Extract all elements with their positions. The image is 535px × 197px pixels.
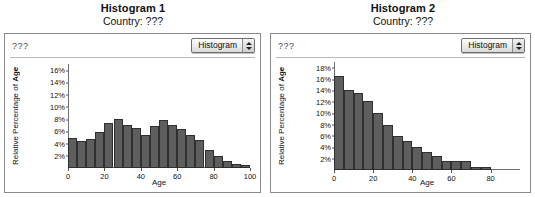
x-tick-mark — [214, 168, 215, 171]
histogram-bar — [363, 101, 373, 170]
histogram-bar — [68, 138, 77, 168]
histogram-bar — [393, 136, 403, 170]
x-tick-mark — [250, 168, 251, 171]
y-tick-label: 2% — [54, 151, 65, 160]
chart-1: Relative Percentage of Age 2%4%6%8%10%12… — [5, 58, 260, 192]
panel-2-subtitle: Country: ??? — [318, 15, 488, 28]
chart-2-y-ticks: 2%4%6%8%10%12%14%16%18% — [287, 62, 331, 170]
chart-1-plot-area — [68, 64, 250, 168]
histogram-bar — [383, 125, 393, 170]
x-tick-mark — [334, 170, 335, 173]
x-tick-mark — [141, 168, 142, 171]
histogram-bar — [168, 125, 177, 168]
chart-1-y-ticks: 2%4%6%8%10%12%14%16% — [21, 64, 65, 168]
y-tick-label: 4% — [54, 139, 65, 148]
histogram-bar — [373, 113, 383, 170]
x-tick-mark — [177, 168, 178, 171]
y-tick-label: 18% — [316, 63, 331, 72]
y-tick-label: 14% — [316, 86, 331, 95]
x-tick-mark — [373, 170, 374, 173]
panel-2-chart-type-label: Histogram — [462, 39, 512, 52]
panel-1-toolbar: ??? Histogram — [5, 34, 260, 58]
histogram-bar — [214, 156, 223, 168]
panel-1-subtitle: Country: ??? — [48, 15, 218, 28]
histogram-bar — [114, 119, 123, 168]
x-tick-mark — [68, 168, 69, 171]
x-tick-mark — [412, 170, 413, 173]
chart-1-x-axis-label: Age — [68, 178, 250, 187]
histogram-comparison-screen: Histogram 1 Country: ??? Histogram 2 Cou… — [0, 0, 535, 197]
histogram-bar — [132, 128, 141, 168]
chart-2-plot-area — [334, 62, 520, 170]
histogram-bar — [186, 135, 195, 168]
panel-2-chart-type-dropdown[interactable]: Histogram — [461, 38, 525, 53]
histogram-bar — [461, 161, 471, 170]
y-tick-label: 6% — [54, 127, 65, 136]
histogram-bar — [77, 141, 86, 168]
x-tick-mark — [104, 168, 105, 171]
histogram-bar — [177, 129, 186, 168]
panel-1-chart-type-label: Histogram — [192, 39, 242, 52]
histogram-bar — [344, 90, 354, 170]
histogram-bar — [412, 147, 422, 170]
histogram-bar — [451, 161, 461, 170]
panel-2-title: Histogram 2 — [318, 2, 488, 15]
panel-histogram-2: ??? Histogram Relative Percentage of Age… — [270, 33, 531, 193]
panel-2-corner-label: ??? — [278, 41, 295, 51]
histogram-bar — [223, 161, 232, 168]
y-tick-label: 6% — [320, 131, 331, 140]
panel-1-stepper-icon[interactable] — [242, 39, 254, 52]
y-tick-label: 12% — [316, 97, 331, 106]
y-tick-label: 4% — [320, 143, 331, 152]
y-tick-label: 8% — [54, 115, 65, 124]
histogram-bar — [159, 120, 168, 168]
panel-2-toolbar: ??? Histogram — [271, 34, 530, 58]
panel-1-chart-type-dropdown[interactable]: Histogram — [191, 38, 255, 53]
histogram-bar — [334, 76, 344, 170]
histogram-bar — [86, 139, 95, 168]
panel-histogram-1: ??? Histogram Relative Percentage of Age… — [4, 33, 261, 193]
y-tick-label: 16% — [316, 75, 331, 84]
panel-2-header: Histogram 2 Country: ??? — [318, 2, 488, 28]
histogram-bar — [232, 164, 241, 168]
histogram-bar — [205, 150, 214, 168]
y-tick-label: 14% — [50, 78, 65, 87]
histogram-bar — [195, 140, 204, 168]
histogram-bar — [95, 132, 104, 168]
panel-1-corner-label: ??? — [12, 41, 29, 51]
histogram-bar — [481, 167, 491, 170]
panel-2-stepper-icon[interactable] — [512, 39, 524, 52]
histogram-bar — [123, 125, 132, 168]
histogram-bar — [442, 161, 452, 170]
x-tick-mark — [491, 170, 492, 173]
chart-2-x-axis-label: Age — [334, 178, 520, 187]
chart-1-y-axis-label: Relative Percentage of Age — [11, 64, 20, 168]
histogram-bar — [422, 152, 432, 170]
histogram-bar — [354, 93, 364, 170]
y-tick-label: 16% — [50, 66, 65, 75]
histogram-bar — [241, 165, 250, 168]
y-tick-label: 2% — [320, 154, 331, 163]
histogram-bar — [141, 135, 150, 168]
histogram-bar — [471, 167, 481, 170]
y-tick-label: 10% — [316, 109, 331, 118]
histogram-bar — [150, 126, 159, 168]
panel-1-header: Histogram 1 Country: ??? — [48, 2, 218, 28]
x-tick-mark — [451, 170, 452, 173]
y-tick-label: 10% — [50, 102, 65, 111]
chart-2-y-axis-label: Relative Percentage of Age — [277, 62, 286, 170]
y-tick-label: 8% — [320, 120, 331, 129]
histogram-bar — [432, 156, 442, 170]
panel-1-title: Histogram 1 — [48, 2, 218, 15]
y-tick-label: 12% — [50, 90, 65, 99]
histogram-bar — [403, 141, 413, 170]
chart-2: Relative Percentage of Age 2%4%6%8%10%12… — [271, 58, 530, 192]
histogram-bar — [104, 123, 113, 168]
